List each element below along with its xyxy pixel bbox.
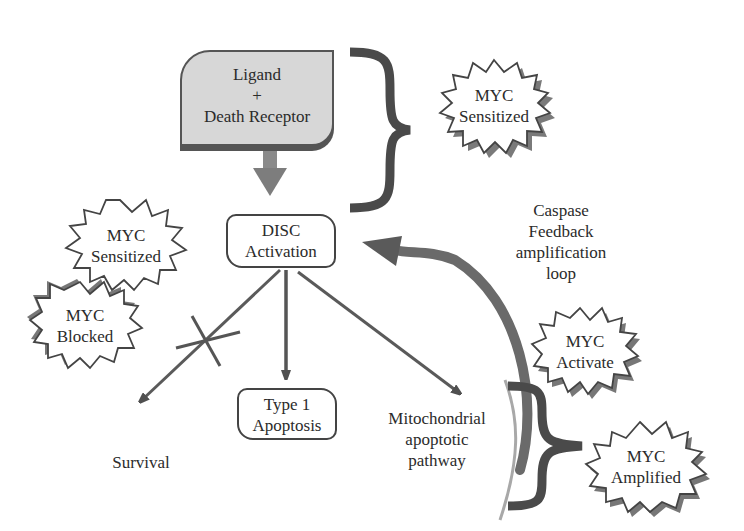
- mito-line-1: Mitochondrial: [372, 408, 502, 429]
- ligand-label: Ligand: [182, 64, 332, 85]
- caspase-feedback-arrow: [362, 236, 527, 520]
- arrow-disc-to-mito: [298, 272, 458, 392]
- caspase-line-4: loop: [506, 263, 616, 284]
- node-disc-activation: DISC Activation: [226, 214, 336, 268]
- node-type1-apoptosis: Type 1 Apoptosis: [237, 388, 337, 440]
- node-mitochondrial-pathway: Mitochondrial apoptotic pathway: [372, 408, 502, 471]
- arrow-ligand-to-disc: [253, 150, 287, 196]
- mito-line-3: pathway: [372, 450, 502, 471]
- badge-line-2: Blocked: [40, 326, 130, 347]
- type1-label: Type 1: [239, 394, 335, 415]
- badge-myc-blocked: MYC Blocked: [40, 305, 130, 347]
- badge-line-2: Activate: [540, 352, 630, 373]
- node-ligand-death-receptor: Ligand + Death Receptor: [180, 50, 334, 146]
- mito-line-2: apoptotic: [372, 429, 502, 450]
- activation-label: Activation: [228, 241, 334, 262]
- node-survival: Survival: [96, 452, 186, 473]
- badge-line-2: Amplified: [598, 467, 694, 488]
- badge-myc-amplified: MYC Amplified: [598, 446, 694, 488]
- survival-label: Survival: [96, 452, 186, 473]
- badge-line-1: MYC: [444, 85, 544, 106]
- caspase-line-1: Caspase: [506, 200, 616, 221]
- disc-label: DISC: [228, 220, 334, 241]
- badge-line-1: MYC: [540, 331, 630, 352]
- badge-myc-sensitized-top: MYC Sensitized: [444, 85, 544, 127]
- brace-mito: [508, 386, 582, 506]
- caspase-feedback-label: Caspase Feedback amplification loop: [506, 200, 616, 284]
- plus-label: +: [182, 85, 332, 106]
- badge-line-2: Sensitized: [76, 246, 176, 267]
- caspase-line-2: Feedback: [506, 221, 616, 242]
- badge-line-1: MYC: [598, 446, 694, 467]
- arrow-disc-to-survival: [142, 270, 280, 400]
- death-receptor-label: Death Receptor: [182, 106, 332, 127]
- badge-myc-sensitized-left: MYC Sensitized: [76, 225, 176, 267]
- caspase-line-3: amplification: [506, 242, 616, 263]
- apoptosis-label: Apoptosis: [239, 415, 335, 436]
- badge-myc-activate: MYC Activate: [540, 331, 630, 373]
- badge-line-1: MYC: [40, 305, 130, 326]
- brace-ligand: [350, 52, 410, 208]
- badge-line-1: MYC: [76, 225, 176, 246]
- badge-line-2: Sensitized: [444, 106, 544, 127]
